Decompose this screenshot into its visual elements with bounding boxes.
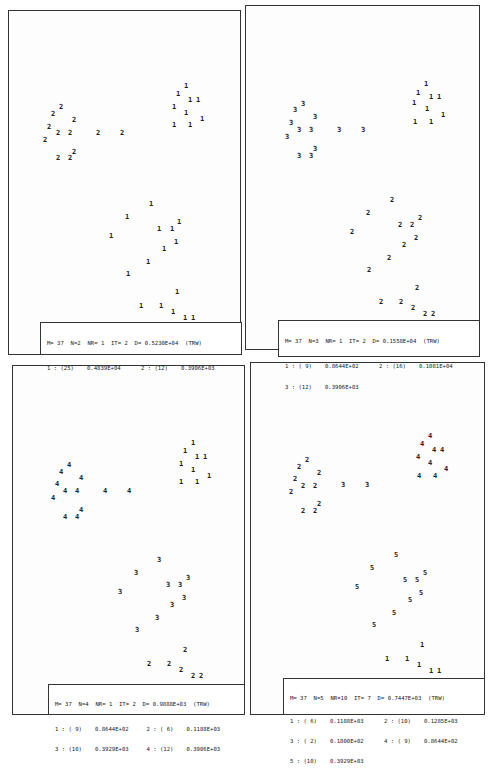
cluster-label: 3 : (12) [285, 384, 325, 391]
cluster-point: 3 [135, 627, 139, 634]
cluster-point: 2 [317, 470, 321, 477]
info-row: 1 : (25)0.4839E+04 2 : (12)0.3906E+03 [47, 365, 235, 372]
cluster-point: 1 [425, 106, 429, 113]
cluster-point: 2 [191, 673, 195, 680]
cluster-point: 5 [423, 570, 427, 577]
cluster-point: 4 [416, 454, 420, 461]
cluster-point: 5 [408, 597, 412, 604]
cluster-point: 3 [166, 582, 170, 589]
cluster-point: 4 [432, 447, 436, 454]
cluster-point: 2 [179, 667, 183, 674]
cluster-point: 2 [415, 285, 419, 292]
cluster-point: 4 [103, 488, 107, 495]
cluster-point: 2 [72, 149, 76, 156]
cluster-point: 2 [387, 255, 391, 262]
cluster-point: 1 [191, 467, 195, 474]
cluster-value: 0.1188E+03 [187, 726, 239, 733]
cluster-label: 1 : ( 6) [290, 718, 330, 725]
cluster-point: 2 [56, 130, 60, 137]
cluster-value: 0.8644E+02 [325, 363, 379, 370]
cluster-point: 2 [301, 508, 305, 515]
cluster-point: 1 [139, 303, 143, 310]
cluster-point: 1 [149, 201, 153, 208]
cluster-point: 2 [167, 661, 171, 668]
cluster-point: 2 [47, 124, 51, 131]
cluster-point: 1 [191, 315, 195, 322]
cluster-point: 4 [79, 475, 83, 482]
cluster-point: 1 [184, 110, 188, 117]
info-header: M= 37 N=5 NR=10 IT= 7 D= 0.7447E+03 (TRW… [290, 695, 478, 702]
cluster-point: 1 [416, 90, 420, 97]
cluster-point: 2 [293, 476, 297, 483]
cluster-point: 5 [372, 622, 376, 629]
info-box-n4: M= 37 N=4 NR= 1 IT= 2 D= 0.9888E+03 (TRW… [48, 684, 245, 715]
cluster-label: 4 : ( 9) [384, 738, 424, 745]
cluster-point: 2 [390, 197, 394, 204]
cluster-point: 1 [188, 122, 192, 129]
info-header: M= 37 N=3 NR= 1 IT= 2 D= 0.1558E+04 (TRW… [285, 338, 473, 345]
cluster-point: 1 [175, 289, 179, 296]
cluster-point: 2 [402, 242, 406, 249]
cluster-point: 1 [171, 309, 175, 316]
cluster-point: 2 [51, 111, 55, 118]
cluster-label: 1 : ( 9) [55, 726, 95, 733]
info-header: M= 37 N=4 NR= 1 IT= 2 D= 0.9888E+03 (TRW… [55, 701, 238, 708]
cluster-point: 2 [297, 464, 301, 471]
cluster-point: 2 [313, 508, 317, 515]
cluster-point: 1 [184, 83, 188, 90]
cluster-point: 2 [313, 483, 317, 490]
cluster-point: 3 [337, 127, 341, 134]
cluster-value: 0.3906E+03 [187, 746, 239, 753]
cluster-point: 2 [414, 235, 418, 242]
cluster-point: 1 [170, 226, 174, 233]
cluster-point: 5 [392, 610, 396, 617]
cluster-point: 1 [203, 454, 207, 461]
cluster-point: 3 [285, 134, 289, 141]
info-box-n5: M= 37 N=5 NR=10 IT= 7 D= 0.7447E+03 (TRW… [283, 678, 485, 715]
cluster-point: 3 [301, 101, 305, 108]
cluster-point: 1 [109, 233, 113, 240]
cluster-point: 1 [146, 259, 150, 266]
cluster-point: 2 [398, 222, 402, 229]
cluster-point: 1 [385, 656, 389, 663]
cluster-point: 2 [317, 501, 321, 508]
cluster-label: 2 : (12) [141, 365, 181, 372]
info-box-n2: M= 37 N=2 NR= 1 IT= 2 D= 0.5230E+04 (TRW… [40, 322, 242, 355]
cluster-label: 3 : ( 2) [290, 738, 330, 745]
cluster-point: 2 [68, 130, 72, 137]
cluster-point: 4 [59, 469, 63, 476]
cluster-point: 2 [431, 311, 435, 318]
cluster-point: 1 [172, 104, 176, 111]
cluster-point: 3 [341, 482, 345, 489]
cluster-point: 3 [155, 615, 159, 622]
cluster-point: 2 [96, 130, 100, 137]
cluster-point: 3 [297, 153, 301, 160]
cluster-point: 2 [423, 311, 427, 318]
cluster-point: 3 [313, 114, 317, 121]
cluster-point: 3 [186, 575, 190, 582]
cluster-value: 0.1800E+02 [330, 738, 384, 745]
cluster-point: 2 [199, 673, 203, 680]
cluster-point: 2 [56, 155, 60, 162]
info-row: 3 : (12)0.3906E+03 [285, 384, 473, 391]
cluster-point: 1 [157, 226, 161, 233]
cluster-point: 4 [51, 495, 55, 502]
cluster-point: 4 [55, 481, 59, 488]
info-row: 3 : ( 2)0.1800E+02 4 : ( 9)0.8644E+02 [290, 738, 478, 745]
cluster-point: 1 [420, 642, 424, 649]
cluster-value: 0.1285E+03 [424, 718, 478, 725]
cluster-point: 2 [43, 137, 47, 144]
cluster-point: 4 [63, 514, 67, 521]
cluster-point: 1 [413, 119, 417, 126]
cluster-point: 2 [366, 210, 370, 217]
cluster-value: 0.3906E+03 [181, 365, 235, 372]
cluster-point: 3 [293, 107, 297, 114]
cluster-point: 1 [191, 440, 195, 447]
cluster-label: 4 : (12) [147, 746, 187, 753]
cluster-point: 4 [428, 433, 432, 440]
cluster-point: 2 [350, 229, 354, 236]
cluster-point: 5 [355, 584, 359, 591]
cluster-point: 1 [177, 219, 181, 226]
cluster-point: 1 [429, 94, 433, 101]
cluster-label: 3 : (10) [55, 746, 95, 753]
